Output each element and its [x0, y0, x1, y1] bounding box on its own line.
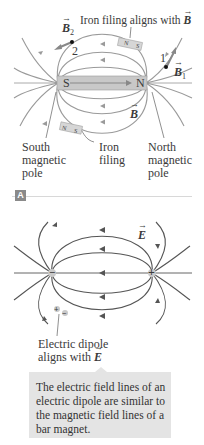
caption-text: The electric field lines of an electric … [36, 380, 172, 436]
b-field-label: B [130, 108, 138, 121]
panel-a-badge: A [15, 190, 26, 201]
dipole-minus: − [62, 307, 67, 320]
north-pole-letter: N [136, 77, 145, 90]
north-magnetic-pole-label: North magnetic pole [148, 141, 192, 180]
dipole-plus: + [54, 303, 59, 316]
point-2-label: 2 [72, 45, 78, 58]
south-magnetic-pole-label: South magnetic pole [22, 141, 66, 180]
b2-vector-label: B2 [62, 22, 74, 39]
b1-vector-label: B1 [174, 66, 186, 83]
e-field-label: E [138, 229, 146, 242]
iron-filing-aligns-label: Iron filing aligns with B [80, 14, 191, 27]
iron-filing-label: Iron filing [99, 141, 125, 167]
negative-charge: − [49, 266, 55, 279]
positive-charge: + [148, 266, 155, 279]
panel-divider [12, 196, 192, 197]
electric-dipole-label: Electric dipole aligns with E [38, 338, 108, 364]
south-pole-letter: S [63, 77, 70, 90]
point-1-label: 1 [160, 52, 166, 65]
